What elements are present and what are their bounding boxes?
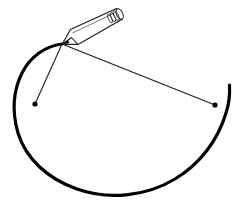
pen-arc-illustration: [0, 0, 248, 204]
figure-background: [0, 0, 248, 204]
right-endpoint-dot: [212, 102, 217, 107]
figure-canvas: Pen drawing an arc with two radius lines: [0, 0, 248, 204]
left-endpoint-dot: [32, 101, 37, 106]
